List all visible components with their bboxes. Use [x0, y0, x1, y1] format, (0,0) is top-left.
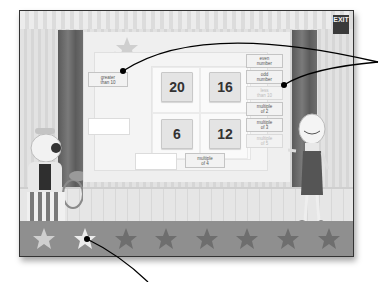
label-line: of 5	[261, 141, 269, 146]
star-empty-icon	[114, 227, 138, 251]
star-empty-icon	[235, 227, 259, 251]
label-bank-odd-number[interactable]: odd number	[246, 70, 283, 84]
clown-bear-character	[23, 126, 83, 232]
label-bank-even-number[interactable]: even number	[246, 54, 283, 68]
progress-star-bar	[20, 221, 353, 256]
column-label-slot-empty[interactable]	[135, 153, 177, 170]
number-tile[interactable]: 6	[161, 119, 193, 149]
number-tile[interactable]: 16	[209, 72, 241, 102]
star-empty-icon	[317, 227, 341, 251]
column-label-multiple-of-4[interactable]: multiple of 4	[185, 153, 225, 168]
label-bank-multiple-of-5[interactable]: multiple of 5	[246, 134, 283, 148]
label-line: than 10	[100, 80, 115, 85]
label-bank-multiple-of-3[interactable]: multiple of 3	[246, 118, 283, 132]
star-empty-icon	[195, 227, 219, 251]
number-tile[interactable]: 20	[161, 72, 193, 102]
number-tile[interactable]: 12	[209, 119, 241, 149]
row-label-slot-empty[interactable]	[88, 118, 130, 135]
label-bank-multiple-of-2[interactable]: multiple of 2	[246, 102, 283, 116]
curtain-valance	[20, 11, 353, 29]
row-label-greater-than-10[interactable]: greater than 10	[88, 72, 128, 87]
exit-button[interactable]: EXIT	[333, 15, 349, 34]
star-earned-icon	[32, 227, 56, 251]
label-line: of 2	[261, 109, 269, 114]
star-empty-icon	[154, 227, 178, 251]
label-line: than 10	[257, 93, 272, 98]
presenter-girl-character	[288, 111, 338, 229]
game-window: 20 16 6 12 greater than 10 multiple of 4…	[19, 10, 354, 257]
label-line: of 4	[201, 161, 209, 166]
star-empty-icon	[276, 227, 300, 251]
label-bank-less-than-10[interactable]: less than 10	[246, 86, 283, 100]
label-line: number	[257, 77, 272, 82]
label-line: of 3	[261, 125, 269, 130]
star-earned-icon	[73, 227, 97, 251]
label-line: number	[257, 61, 272, 66]
